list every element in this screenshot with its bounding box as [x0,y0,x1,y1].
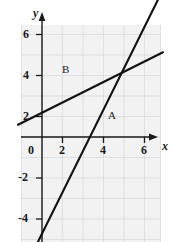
y-tick-label-4: 4 [23,69,29,81]
x-axis-label: x [162,140,168,152]
line-label-a: A [108,110,116,121]
y-tick-label-2: 2 [23,110,29,122]
graph-figure: y x 6 4 2 -2 -4 0 2 4 6 B A [0,0,172,242]
x-tick-label-2: 2 [59,144,65,156]
y-tick-label-6: 6 [23,28,29,40]
line-label-b: B [62,64,69,75]
x-tick-label-4: 4 [100,144,106,156]
y-axis-arrowhead [39,12,46,21]
x-tick-label-0: 0 [28,144,34,156]
y-tick-label-neg2: -2 [18,171,28,183]
x-tick-label-6: 6 [141,144,147,156]
y-tick-label-neg4: -4 [18,212,28,224]
y-axis-label: y [33,7,38,19]
